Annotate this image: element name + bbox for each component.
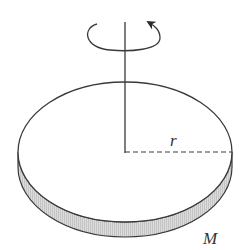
- mass-label: M: [202, 229, 218, 248]
- radius-label: r: [170, 131, 177, 150]
- rotation-arrow: [88, 22, 160, 51]
- disk-diagram: r M: [0, 0, 248, 250]
